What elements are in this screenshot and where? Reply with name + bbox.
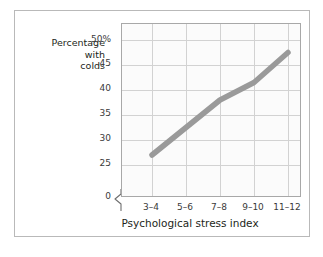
y-tick-label-50: 50% — [67, 35, 111, 44]
y-tick-label-30: 30 — [67, 134, 111, 143]
y-tick-label-25: 25 — [67, 159, 111, 168]
y-tick-label-40: 40 — [67, 84, 111, 93]
y-tick-label-45: 45 — [67, 59, 111, 68]
data-series-line — [122, 24, 301, 197]
x-tick-label-11-12: 11–12 — [267, 203, 307, 212]
y-tick-label-0: 0 — [67, 192, 111, 201]
figure-panel: Percentage with colds 50% 45 40 35 30 25… — [14, 10, 310, 237]
plot-area — [121, 23, 301, 197]
x-axis-title: Psychological stress index — [75, 217, 305, 229]
y-tick-label-35: 35 — [67, 109, 111, 118]
